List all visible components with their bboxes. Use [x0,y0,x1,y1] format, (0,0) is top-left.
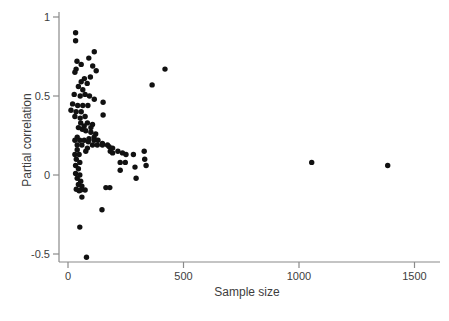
x-tick-label: 1000 [287,270,311,282]
data-point [75,103,80,108]
data-point [75,142,80,147]
data-point [76,166,81,171]
data-point [79,79,84,84]
data-point [131,152,136,157]
data-point [123,160,128,165]
data-point [75,147,80,152]
data-point [72,70,77,75]
data-point [88,74,93,79]
data-point [79,62,84,67]
data-point [80,87,85,92]
data-point [72,92,77,97]
x-tick-label: 1500 [402,270,426,282]
data-point [73,38,78,43]
data-point [76,152,81,157]
data-point [84,255,89,260]
x-axis-label: Sample size [214,285,280,299]
data-point [100,100,105,105]
scatter-plot: 10.50-0.5 050010001500 Sample size Parti… [0,0,449,321]
data-point [85,103,90,108]
data-point [77,224,82,229]
data-point [86,55,91,60]
y-tick-label: 0.5 [35,90,50,102]
y-axis: 10.50-0.5 [31,11,59,262]
data-point [90,63,95,68]
data-point [143,163,148,168]
data-point [72,138,77,143]
data-point [80,103,85,108]
data-point [83,149,88,154]
data-point [85,81,90,86]
data-point [78,93,83,98]
data-point [72,114,77,119]
data-point [79,194,84,199]
y-tick-label: -0.5 [31,248,50,260]
data-point [92,49,97,54]
data-point [88,125,93,130]
data-point [118,160,123,165]
data-point [82,114,87,119]
data-point [83,128,88,133]
data-point [95,138,100,143]
data-point [79,109,84,114]
data-point [68,108,73,113]
data-point [100,142,105,147]
x-tick-label: 500 [174,270,192,282]
data-point [73,109,78,114]
data-point [100,112,105,117]
data-point [142,157,147,162]
data-point [115,149,120,154]
x-tick-label: 0 [65,270,71,282]
data-point [79,142,84,147]
data-point [309,160,314,165]
data-point [132,164,137,169]
data-point [92,97,97,102]
data-point [149,82,154,87]
data-point [82,187,87,192]
data-point [78,115,83,120]
data-point [133,176,138,181]
data-point [118,168,123,173]
data-point [385,163,390,168]
scatter-plot-figure: 10.50-0.5 050010001500 Sample size Parti… [0,0,449,321]
data-point [95,142,100,147]
data-point [94,68,99,73]
x-axis: 050010001500 [59,262,440,282]
data-point [123,152,128,157]
data-point [90,142,95,147]
data-point [110,150,115,155]
data-points [68,30,390,260]
data-point [88,130,93,135]
y-tick-label: 1 [44,11,50,23]
y-tick-label: 0 [44,169,50,181]
data-point [70,101,75,106]
data-point [73,30,78,35]
data-point [99,207,104,212]
data-point [87,93,92,98]
y-axis-label: Partial correlation [20,93,34,186]
data-point [107,185,112,190]
data-point [162,66,167,71]
data-point [142,149,147,154]
data-point [76,84,81,89]
